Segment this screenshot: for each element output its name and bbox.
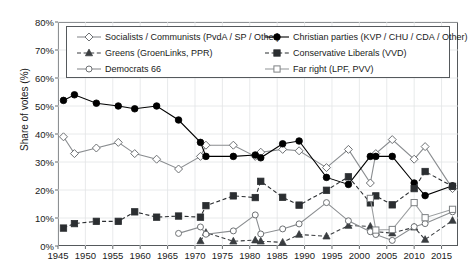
chart-legend: Socialists / Communists (PvdA / SP / Oth… bbox=[66, 26, 450, 78]
y-tick-label: 50% bbox=[18, 101, 54, 112]
legend-item[interactable]: Conservative Liberals (VVD) bbox=[263, 47, 407, 59]
legend-item[interactable]: Far right (LPF, PVV) bbox=[263, 63, 374, 75]
legend-item[interactable]: Greens (GroenLinks, PPR) bbox=[75, 47, 213, 59]
legend-label: Far right (LPF, PVV) bbox=[293, 63, 374, 75]
legend-marker-icon bbox=[75, 31, 103, 43]
legend-label: Greens (GroenLinks, PPR) bbox=[105, 47, 213, 59]
legend-label: Socialists / Communists (PvdA / SP / Oth… bbox=[105, 31, 279, 43]
legend-marker-icon bbox=[75, 47, 103, 59]
legend-label: Conservative Liberals (VVD) bbox=[293, 47, 407, 59]
y-tick-label: 20% bbox=[18, 185, 54, 196]
x-tick-label: 2015 bbox=[422, 250, 462, 261]
legend-marker-icon bbox=[263, 63, 291, 75]
y-tick-label: 10% bbox=[18, 213, 54, 224]
legend-marker-icon bbox=[263, 31, 291, 43]
y-tick-label: 30% bbox=[18, 157, 54, 168]
legend-item[interactable]: Christian parties (KVP / CHU / CDA / Oth… bbox=[263, 31, 467, 43]
y-tick-label: 70% bbox=[18, 45, 54, 56]
legend-label: Democrats 66 bbox=[105, 63, 161, 75]
chart-container: Share of votes (%) 0%10%20%30%40%50%60%7… bbox=[0, 0, 472, 278]
legend-marker-icon bbox=[75, 63, 103, 75]
legend-label: Christian parties (KVP / CHU / CDA / Oth… bbox=[293, 31, 467, 43]
legend-item[interactable]: Socialists / Communists (PvdA / SP / Oth… bbox=[75, 31, 279, 43]
y-tick-label: 60% bbox=[18, 73, 54, 84]
y-tick-label: 80% bbox=[18, 17, 54, 28]
legend-marker-icon bbox=[263, 47, 291, 59]
y-tick-label: 40% bbox=[18, 129, 54, 140]
legend-item[interactable]: Democrats 66 bbox=[75, 63, 161, 75]
